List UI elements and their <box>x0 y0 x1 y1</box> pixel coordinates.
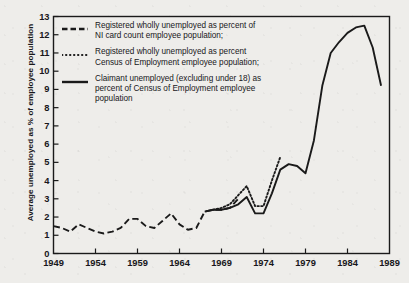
series-line-dotted <box>213 157 280 210</box>
legend-line-sample-dotted <box>62 50 88 60</box>
legend-label: Registered wholly unemployed as percent … <box>95 21 255 42</box>
legend-entry: Claimant unemployed (excluding under 18)… <box>62 74 312 105</box>
legend-line-sample-solid <box>62 77 88 87</box>
legend-label-line: percent of Census of Employment employee <box>95 84 261 94</box>
legend-label-line: population <box>95 94 261 104</box>
legend-label-line: Registered wholly unemployed as percent <box>95 47 259 57</box>
legend-entry: Registered wholly unemployed as percent … <box>62 21 312 42</box>
chart-legend: Registered wholly unemployed as percent … <box>62 21 312 110</box>
legend-label: Claimant unemployed (excluding under 18)… <box>95 74 261 105</box>
legend-label-line: NI card count employee population; <box>95 31 255 41</box>
legend-entry: Registered wholly unemployed as percentC… <box>62 47 312 68</box>
legend-label-line: Registered wholly unemployed as percent … <box>95 21 255 31</box>
series-line-dashed <box>54 199 239 234</box>
legend-label: Registered wholly unemployed as percentC… <box>95 47 259 68</box>
unemployment-rate-chart: Average unemployed as % of employee popu… <box>0 0 409 283</box>
legend-line-sample-dashed <box>62 24 88 34</box>
legend-label-line: Census of Employment employee population… <box>95 58 259 68</box>
legend-label-line: Claimant unemployed (excluding under 18)… <box>95 74 261 84</box>
